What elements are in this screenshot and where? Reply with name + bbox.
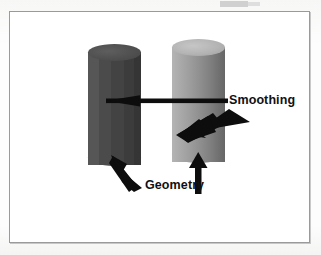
figure-canvas: Smoothing Geometry bbox=[10, 12, 309, 242]
geometry-label: Geometry bbox=[145, 178, 204, 192]
scan-artifact-block bbox=[220, 1, 248, 7]
scanned-figure-page: Smoothing Geometry bbox=[0, 0, 321, 255]
annotation-arrows bbox=[10, 12, 311, 244]
smoothing-label: Smoothing bbox=[229, 93, 295, 107]
smoothing-horizontal-arrow bbox=[106, 95, 228, 106]
scan-artifact-block-secondary bbox=[248, 2, 260, 6]
figure-frame: Smoothing Geometry bbox=[9, 11, 310, 243]
smoothing-diagonal-arrow bbox=[176, 109, 250, 143]
geometry-left-arrow bbox=[109, 155, 142, 192]
